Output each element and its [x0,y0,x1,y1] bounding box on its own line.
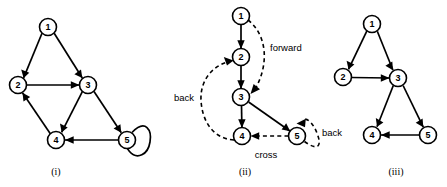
edge-1-to-2 [21,33,42,78]
node-3-label: 3 [238,92,243,102]
node-5: 5 [119,132,136,149]
node-1: 1 [40,19,57,36]
panel-ii-edge-labels: forward back cross back [174,42,342,160]
edge-label-back-self-loop: back [322,127,342,138]
edge-1-to-3 [54,33,82,78]
node-4: 4 [234,128,251,145]
edge-1-to-2 [347,31,367,69]
panel-i: 1 2 3 4 5 (i) [10,19,151,179]
edge-1-to-2 [237,25,244,50]
edge-label-cross: cross [255,149,278,160]
node-5-label: 5 [124,135,129,145]
edge-2-to-3 [352,74,390,81]
node-3: 3 [233,89,250,106]
edge-4-to-2-back [201,57,234,140]
edge-3-to-4 [376,85,394,127]
edge-label-forward: forward [270,42,302,53]
edge-1-to-3-forward [248,20,264,94]
edge-3-to-4 [238,106,245,129]
node-5: 5 [420,127,437,144]
panel-iii-edges [347,31,424,139]
node-3: 3 [390,70,407,87]
edge-5-to-4 [381,131,420,138]
node-2-label: 2 [15,80,20,90]
node-4: 4 [364,127,381,144]
node-1-label: 1 [369,19,374,29]
node-4: 4 [48,132,65,149]
edge-3-to-5 [403,86,423,128]
edge-1-to-3 [377,31,393,70]
node-2: 2 [10,77,27,94]
node-2: 2 [335,69,352,86]
node-3: 3 [80,77,97,94]
node-3-label: 3 [395,73,400,83]
edge-2-to-3 [27,81,80,88]
edge-5-to-4-cross [251,132,289,139]
node-3-label: 3 [85,80,90,90]
edge-4-to-2 [23,93,51,134]
panel-iii: 1 2 3 4 5 (iii) [335,16,437,179]
node-5-label: 5 [294,131,299,141]
edge-label-back-4-2: back [174,92,194,103]
edge-5-to-4 [65,136,119,143]
panel-iii-caption: (iii) [389,166,404,178]
node-5: 5 [289,128,306,145]
panel-ii: 1 2 3 4 5 forward back cross back [174,8,342,179]
panel-ii-edges [201,20,319,147]
node-1: 1 [233,8,250,25]
dfs-edge-classification-figure: 1 2 3 4 5 (i) [0,0,447,187]
edge-3-to-5 [94,92,121,133]
node-1: 1 [364,16,381,33]
node-2: 2 [233,49,250,66]
node-5-label: 5 [425,130,430,140]
edge-3-to-5 [249,102,291,131]
node-1-label: 1 [238,11,243,21]
panel-ii-caption: (ii) [239,166,251,178]
node-2-label: 2 [340,72,345,82]
panel-i-caption: (i) [51,166,60,178]
edge-3-to-4 [60,91,83,132]
node-4-label: 4 [53,135,58,145]
edge-2-to-3 [237,66,244,90]
node-2-label: 2 [238,52,243,62]
node-4-label: 4 [369,130,374,140]
node-1-label: 1 [45,22,50,32]
node-4-label: 4 [239,131,244,141]
